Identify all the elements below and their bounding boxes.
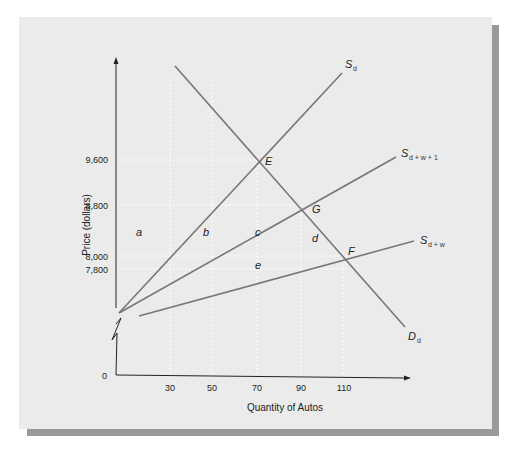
svg-text:S: S [401, 147, 409, 159]
svg-text:d: d [417, 337, 421, 344]
chart-svg: 9,600 8,800 8,000 7,800 0 30 50 70 90 11… [0, 0, 515, 454]
x-axis-arrow-icon [404, 376, 411, 381]
area-b: b [203, 226, 209, 238]
area-c: c [255, 226, 261, 238]
x-tick-110: 110 [337, 383, 351, 393]
origin-label: 0 [102, 371, 107, 381]
area-d: d [312, 232, 319, 244]
svg-text:S: S [345, 58, 353, 70]
point-e: E [265, 155, 273, 167]
supply-curve-sd [119, 73, 342, 313]
x-axis [116, 375, 411, 381]
area-e: e [255, 259, 261, 271]
axis-break-icon [112, 318, 121, 375]
grid-guides [117, 80, 348, 374]
x-tick-90: 90 [296, 383, 306, 393]
label-sdw1: S d + w + 1 [401, 147, 438, 161]
x-tick-30: 30 [165, 383, 175, 393]
svg-text:d + w: d + w [428, 241, 446, 248]
x-axis-title: Quantity of Autos [247, 402, 323, 413]
point-g: G [312, 203, 321, 215]
x-tick-70: 70 [252, 383, 262, 393]
label-sd: S d [345, 58, 357, 72]
x-tick-50: 50 [207, 383, 217, 393]
svg-text:d: d [353, 65, 357, 72]
y-axis [112, 57, 121, 375]
y-tick-9600: 9,600 [85, 155, 108, 165]
label-sdw: S d + w [420, 234, 446, 248]
demand-curve-dd [175, 66, 405, 327]
point-f: F [348, 245, 356, 257]
area-a: a [136, 226, 142, 238]
svg-text:D: D [408, 330, 416, 342]
svg-text:S: S [420, 234, 428, 246]
label-dd: D d [408, 330, 421, 344]
y-tick-7800: 7,800 [85, 265, 108, 275]
svg-text:d + w + 1: d + w + 1 [409, 154, 438, 161]
y-axis-title: Price (dollars) [81, 194, 92, 256]
y-axis-arrow-icon [114, 57, 119, 64]
